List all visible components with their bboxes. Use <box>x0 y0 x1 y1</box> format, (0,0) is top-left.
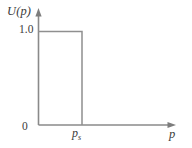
y-axis-label: U(p) <box>7 5 31 18</box>
x-axis-label: p <box>169 128 175 141</box>
origin-label: 0 <box>22 121 28 133</box>
x-axis-tick-label-ps: ps <box>72 127 81 143</box>
y-axis-tick-label-1.0: 1.0 <box>19 24 34 36</box>
y-axis-arrow-icon <box>35 8 41 17</box>
figure-container: U(p) 1.0 0 ps p <box>0 0 192 148</box>
x-tick-subscript: s <box>78 133 81 142</box>
step-function-curve <box>39 32 83 126</box>
